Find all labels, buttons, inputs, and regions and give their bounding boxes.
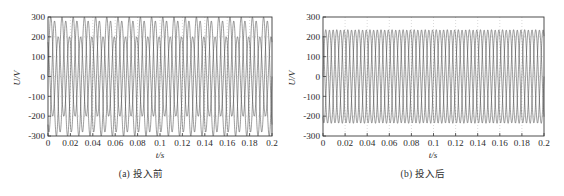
x-tick-label: 0.16	[492, 138, 508, 148]
x-tick-label: 0.06	[107, 138, 123, 148]
y-axis-title-b: U/V	[287, 69, 297, 85]
y-tick-label: -200	[303, 111, 320, 121]
chart-panel-b: 00.020.040.060.080.10.120.140.160.180.23…	[282, 0, 564, 196]
x-tick-label: 0.06	[381, 138, 397, 148]
y-tick-label: 0	[315, 72, 320, 82]
x-tick-label: 0.12	[448, 138, 464, 148]
y-tick-label: -100	[28, 92, 45, 102]
y-tick-label: 200	[31, 32, 45, 42]
y-axis-title-a: U/V	[12, 69, 22, 85]
x-tick-label: 0.2	[538, 138, 550, 148]
x-tick-label: 0	[321, 138, 326, 148]
y-tick-label: 300	[306, 12, 320, 22]
x-tick-label: 0.08	[403, 138, 419, 148]
y-tick-label: 0	[40, 72, 45, 82]
x-tick-label: 0.14	[197, 138, 213, 148]
x-tick-label: 0.1	[428, 138, 440, 148]
x-axis-title-a: t/s	[156, 150, 165, 160]
y-tick-label: -100	[303, 92, 320, 102]
x-tick-label: 0.12	[174, 138, 190, 148]
x-tick-label: 0.18	[514, 138, 530, 148]
x-tick-label: 0.04	[85, 138, 101, 148]
y-tick-label: -200	[28, 111, 45, 121]
x-tick-label: 0.16	[219, 138, 235, 148]
x-tick-label: 0.2	[266, 138, 278, 148]
x-tick-label: 0.04	[359, 138, 375, 148]
y-tick-label: -300	[28, 131, 45, 141]
x-tick-label: 0.1	[154, 138, 166, 148]
chart-panel-a: 00.020.040.060.080.10.120.140.160.180.23…	[0, 0, 282, 196]
x-tick-label: 0	[46, 138, 51, 148]
y-tick-label: 200	[306, 32, 320, 42]
x-tick-label: 0.14	[470, 138, 486, 148]
x-tick-label: 0.18	[242, 138, 258, 148]
x-axis-title-b: t/s	[429, 150, 438, 160]
y-tick-label: 100	[306, 52, 320, 62]
x-tick-label: 0.08	[130, 138, 146, 148]
y-tick-label: 300	[31, 12, 45, 22]
y-tick-label: -300	[303, 131, 320, 141]
figure-container: 00.020.040.060.080.10.120.140.160.180.23…	[0, 0, 564, 196]
x-tick-label: 0.02	[337, 138, 353, 148]
panel-caption-b: (b) 投入后	[282, 166, 564, 180]
x-tick-label: 0.02	[62, 138, 78, 148]
y-tick-label: 100	[31, 52, 45, 62]
panel-caption-a: (a) 投入前	[0, 166, 282, 180]
